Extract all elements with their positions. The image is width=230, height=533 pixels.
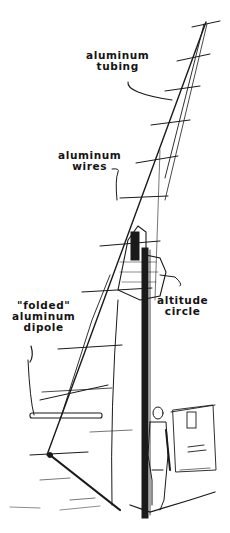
pole — [142, 248, 148, 518]
person — [148, 407, 170, 510]
shed — [171, 405, 216, 472]
antenna-drawing — [0, 0, 230, 533]
label-folded-aluminum-dipole: "folded" aluminum dipole — [12, 300, 75, 333]
label-altitude-circle: altitude circle — [157, 295, 208, 317]
label-aluminum-tubing: aluminum tubing — [86, 50, 149, 72]
label-aluminum-wires: aluminum wires — [58, 150, 121, 172]
antenna-illustration: aluminum tubing aluminum wires "folded" … — [0, 0, 230, 533]
support-strut — [50, 455, 120, 510]
